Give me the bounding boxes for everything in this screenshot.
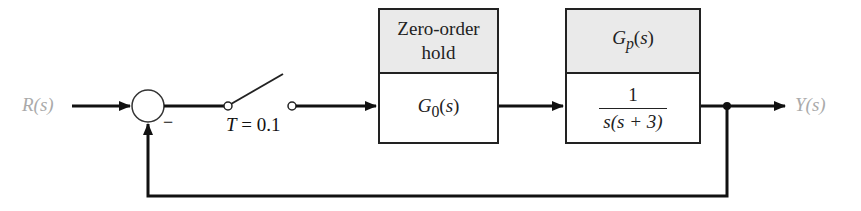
plant-block: Gp(s) 1 s(s + 3) <box>565 8 701 144</box>
input-label: R(s) <box>22 94 54 116</box>
block-transfer-function: G0(s) <box>380 74 497 142</box>
block-header: Zero-orderhold <box>380 10 497 74</box>
sampler-label: T = 0.1 <box>226 114 281 136</box>
block-header: Gp(s) <box>567 10 699 74</box>
zero-order-hold-block: Zero-orderhold G0(s) <box>378 8 499 144</box>
feedback-sign: − <box>163 112 173 133</box>
output-label: Y(s) <box>795 94 826 116</box>
summing-junction <box>132 90 164 122</box>
block-transfer-function: 1 s(s + 3) <box>567 74 699 142</box>
